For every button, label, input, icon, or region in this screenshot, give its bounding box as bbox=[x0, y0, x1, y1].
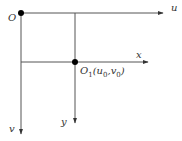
origin-o1-label: O1(u0,v0) bbox=[80, 66, 125, 79]
y-axis-label: y bbox=[61, 117, 67, 127]
x-axis-label: x bbox=[136, 50, 142, 60]
o1-coord-open: (u bbox=[93, 65, 103, 76]
u-axis-label: u bbox=[171, 3, 177, 13]
origin-o-point bbox=[18, 10, 24, 16]
origin-o1-point bbox=[72, 59, 78, 65]
origin-o-label: O bbox=[8, 13, 16, 23]
o1-coord-sep: ,v bbox=[107, 65, 116, 76]
v-axis-label: v bbox=[9, 124, 15, 134]
o1-coord-close: ) bbox=[121, 65, 125, 76]
o1-main: O bbox=[80, 65, 88, 76]
